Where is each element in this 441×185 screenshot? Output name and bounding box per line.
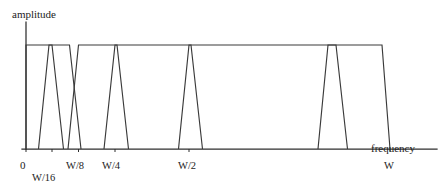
tick-label-w4: W/4 (102, 160, 121, 171)
tick-label-w2: W/2 (178, 160, 196, 171)
filter-band-2 (39, 45, 82, 149)
x-axis-label: frequency (371, 142, 415, 154)
y-axis-label: amplitude (12, 8, 56, 20)
filter-band-3 (68, 45, 129, 149)
filter-band-1 (26, 45, 64, 149)
tick-label-w16: W/16 (32, 172, 55, 183)
tick-label-w: W (384, 160, 394, 171)
filter-band-5 (179, 45, 348, 149)
filter-band-6 (318, 45, 390, 149)
filter-bank-figure: amplitude frequency 0 W/16 W/8 W/4 W/2 W (0, 0, 441, 185)
frequency-response-plot: amplitude frequency 0 W/16 W/8 W/4 W/2 W (0, 0, 441, 185)
tick-label-origin: 0 (20, 159, 26, 171)
tick-label-w8: W/8 (66, 160, 84, 171)
